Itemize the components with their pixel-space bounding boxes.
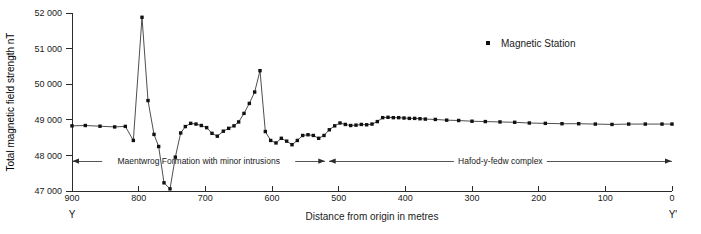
data-point-marker: [544, 122, 547, 125]
x-tick-label: 800: [131, 193, 146, 203]
data-point-marker: [301, 134, 304, 137]
x-tick-label: 200: [531, 193, 546, 203]
y-tick-label: 47 000: [34, 186, 62, 196]
data-point-marker: [124, 125, 127, 128]
data-point-marker: [264, 130, 267, 133]
maentwrog-band-end-arrow: [318, 158, 325, 163]
data-point-marker: [242, 112, 245, 115]
data-point-marker: [560, 122, 563, 125]
data-point-marker: [205, 126, 208, 129]
data-point-marker: [513, 121, 516, 124]
maentwrog-band-start-arrow: [73, 158, 80, 163]
data-point-marker: [216, 134, 219, 137]
data-point-marker: [184, 125, 187, 128]
x-axis-title: Distance from origin in metres: [306, 211, 439, 222]
right-endpoint-label: Y': [669, 209, 678, 220]
legend-entry-label: Magnetic Station: [501, 38, 576, 49]
data-point-marker: [280, 137, 283, 140]
left-endpoint-label: Y: [69, 209, 76, 220]
data-point-marker: [610, 123, 613, 126]
data-point-marker: [328, 128, 331, 131]
x-tick-label: 400: [398, 193, 413, 203]
data-point-marker: [152, 133, 155, 136]
data-point-marker: [113, 125, 116, 128]
data-point-marker: [644, 122, 647, 125]
annotation-band-group: Maentwrog Formation with minor intrusion…: [72, 155, 672, 166]
data-point-marker: [370, 122, 373, 125]
x-tick-group: 9008007006005004003002001000: [64, 186, 674, 203]
hafod-band-start-arrow: [329, 158, 336, 163]
y-tick-label: 48 000: [34, 151, 62, 161]
data-point-marker: [360, 123, 363, 126]
data-point-marker: [627, 122, 630, 125]
data-point-marker: [470, 120, 473, 123]
y-axis-title: Total magnetic field strength nT: [5, 33, 16, 172]
legend: Magnetic Station: [486, 38, 576, 49]
x-tick-label: 0: [669, 193, 674, 203]
x-tick-label: 900: [64, 193, 79, 203]
data-point-marker: [386, 116, 389, 119]
data-point-marker: [168, 187, 171, 190]
data-point-marker: [338, 121, 341, 124]
x-tick-label: 300: [464, 193, 479, 203]
data-point-marker: [269, 139, 272, 142]
data-point-marker: [445, 118, 448, 121]
data-point-marker: [200, 124, 203, 127]
data-point-marker: [285, 139, 288, 142]
magnetic-profile-figure: 47 00048 00049 00050 00051 00052 000 900…: [0, 0, 701, 234]
data-point-marker: [210, 132, 213, 135]
data-point-marker: [344, 123, 347, 126]
data-point-marker: [392, 116, 395, 119]
data-point-marker: [484, 120, 487, 123]
data-point-marker: [98, 125, 101, 128]
data-point-marker: [577, 122, 580, 125]
x-tick-label: 600: [264, 193, 279, 203]
data-point-marker: [402, 116, 405, 119]
data-point-marker: [333, 124, 336, 127]
data-point-marker: [237, 120, 240, 123]
data-point-marker: [594, 122, 597, 125]
data-point-marker: [424, 117, 427, 120]
data-point-marker: [413, 117, 416, 120]
x-tick-label: 500: [331, 193, 346, 203]
data-point-marker: [418, 117, 421, 120]
data-point-marker: [296, 139, 299, 142]
data-point-marker: [290, 143, 293, 146]
data-point-marker: [248, 102, 251, 105]
data-point-marker: [408, 117, 411, 120]
y-tick-label: 51 000: [34, 44, 62, 54]
data-point-marker: [349, 124, 352, 127]
hafod-band-end-arrow: [665, 158, 672, 163]
y-tick-label: 49 000: [34, 115, 62, 125]
data-point-marker: [253, 90, 256, 93]
data-point-marker: [397, 116, 400, 119]
hafod-band-label: Hafod-y-fedw complex: [458, 156, 543, 166]
data-point-marker: [498, 120, 501, 123]
x-tick-label: 100: [598, 193, 613, 203]
y-tick-group: 47 00048 00049 00050 00051 00052 000: [34, 8, 72, 196]
data-point-marker: [194, 122, 197, 125]
data-point-marker: [528, 121, 531, 124]
data-point-marker: [162, 181, 165, 184]
data-point-marker: [70, 124, 73, 127]
data-point-marker: [274, 141, 277, 144]
data-point-marker: [258, 69, 261, 72]
data-point-marker: [179, 131, 182, 134]
chart-canvas: 47 00048 00049 00050 00051 00052 000 900…: [0, 0, 701, 234]
data-point-marker: [376, 120, 379, 123]
data-point-marker: [227, 127, 230, 130]
data-point-marker: [457, 119, 460, 122]
maentwrog-band-label: Maentwrog Formation with minor intrusion…: [117, 156, 280, 166]
data-point-marker: [670, 122, 673, 125]
data-point-marker: [222, 129, 225, 132]
data-point-marker: [146, 99, 149, 102]
x-tick-label: 700: [198, 193, 213, 203]
data-point-marker: [189, 122, 192, 125]
data-point-marker: [381, 116, 384, 119]
data-point-marker: [84, 124, 87, 127]
data-point-marker: [317, 137, 320, 140]
data-point-marker: [365, 123, 368, 126]
data-point-marker: [354, 123, 357, 126]
data-point-marker: [322, 134, 325, 137]
data-point-marker: [232, 124, 235, 127]
